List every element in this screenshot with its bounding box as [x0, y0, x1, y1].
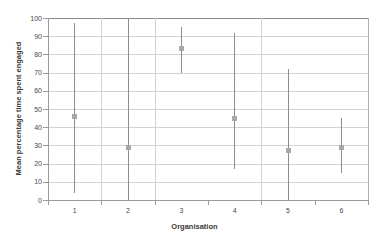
y-axis-tick-labels: 0102030405060708090100: [14, 0, 42, 239]
y-tick-label-10: 10: [16, 178, 42, 185]
x-category-separator-4: [261, 18, 262, 200]
y-tick-mark-40: [43, 127, 48, 128]
plot-right-border: [368, 18, 369, 200]
x-axis-title: Organisation: [0, 222, 389, 231]
y-tick-label-90: 90: [16, 33, 42, 40]
data-point-marker-3: [179, 46, 184, 51]
error-bar-1: [74, 23, 75, 192]
y-tick-mark-90: [43, 36, 48, 37]
y-tick-label-80: 80: [16, 51, 42, 58]
y-tick-label-100: 100: [16, 15, 42, 22]
x-tick-mark-5: [315, 200, 316, 205]
x-category-separator-1: [101, 18, 102, 200]
x-tick-mark-3: [208, 200, 209, 205]
x-tick-mark-2: [155, 200, 156, 205]
y-tick-mark-70: [43, 73, 48, 74]
y-tick-label-70: 70: [16, 69, 42, 76]
gridline-70: [48, 73, 368, 74]
x-tick-mark-0: [48, 200, 49, 205]
error-bar-4: [234, 33, 235, 170]
gridline-30: [48, 145, 368, 146]
x-tick-label-5: 5: [273, 207, 303, 214]
data-point-marker-6: [339, 145, 344, 150]
error-bar-5: [288, 69, 289, 200]
x-tick-mark-end: [368, 200, 369, 205]
data-point-marker-2: [126, 145, 131, 150]
x-tick-label-1: 1: [60, 207, 90, 214]
y-tick-label-40: 40: [16, 124, 42, 131]
x-tick-mark-1: [101, 200, 102, 205]
data-point-marker-4: [232, 116, 237, 121]
gridline-90: [48, 36, 368, 37]
data-point-marker-5: [286, 148, 291, 153]
gridline-60: [48, 91, 368, 92]
gridline-100: [48, 18, 368, 19]
y-tick-label-60: 60: [16, 87, 42, 94]
data-point-marker-1: [72, 114, 77, 119]
y-tick-mark-20: [43, 164, 48, 165]
x-tick-label-3: 3: [166, 207, 196, 214]
y-tick-mark-60: [43, 91, 48, 92]
x-tick-label-4: 4: [220, 207, 250, 214]
y-tick-mark-30: [43, 145, 48, 146]
gridline-50: [48, 109, 368, 110]
y-tick-mark-50: [43, 109, 48, 110]
plot-area: [48, 18, 368, 200]
y-tick-label-30: 30: [16, 142, 42, 149]
gridline-10: [48, 182, 368, 183]
y-tick-label-50: 50: [16, 106, 42, 113]
y-tick-mark-10: [43, 182, 48, 183]
x-category-separator-2: [155, 18, 156, 200]
chart-container: Mean percentage time spent engaged 01020…: [0, 0, 389, 239]
x-tick-mark-4: [261, 200, 262, 205]
gridline-20: [48, 164, 368, 165]
gridline-80: [48, 54, 368, 55]
x-tick-label-2: 2: [113, 207, 143, 214]
y-tick-mark-80: [43, 54, 48, 55]
y-tick-mark-0: [43, 200, 48, 201]
gridline-40: [48, 127, 368, 128]
y-tick-label-0: 0: [16, 197, 42, 204]
error-bar-2: [128, 18, 129, 200]
y-tick-label-20: 20: [16, 160, 42, 167]
x-tick-label-6: 6: [326, 207, 356, 214]
y-tick-mark-100: [43, 18, 48, 19]
y-axis-line: [48, 18, 49, 200]
